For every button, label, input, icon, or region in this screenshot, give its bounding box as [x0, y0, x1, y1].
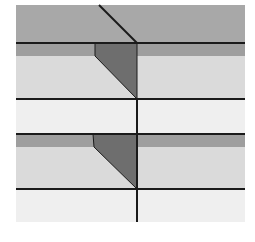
- diagram-container: [0, 0, 255, 242]
- layered-diagram: [0, 0, 255, 242]
- very-light-2: [16, 189, 245, 222]
- very-light-1: [16, 99, 245, 134]
